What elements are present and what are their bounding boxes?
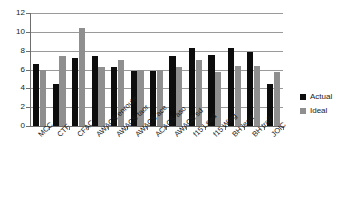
legend-item[interactable]: Ideal [300,104,332,118]
y-axis-tick-label: 8 [21,47,25,55]
legend-swatch-icon [300,94,306,100]
y-axis-tick-label: 6 [21,66,25,74]
legend: ActualIdeal [300,90,332,118]
bar-group [92,13,105,126]
y-axis-tick-label: 0 [21,122,25,130]
bar-group [228,13,241,126]
bar-actual [92,56,98,126]
bar-ideal [40,70,46,127]
bar-group [33,13,46,126]
bar-group [247,13,260,126]
legend-item[interactable]: Actual [300,90,332,104]
bar-group [208,13,221,126]
legend-swatch-icon [300,108,306,114]
y-axis-tick-label: 12 [16,9,25,17]
bar-ideal [254,66,260,126]
bar-actual [53,84,59,126]
bar-ideal [79,28,85,126]
legend-label: Ideal [310,107,327,115]
y-axis-tick-label: 4 [21,84,25,92]
bar-ideal [59,56,65,126]
y-axis-tick-label: 10 [16,28,25,36]
legend-label: Actual [310,93,332,101]
bar-ideal [98,67,104,126]
bar-actual [33,64,39,126]
bar-group [72,13,85,126]
bar-chart: 024681012 MCCCTFCFACAWACS enrouteAWACS t… [0,0,356,214]
bar-actual [72,58,78,126]
y-axis-tick-label: 2 [21,103,25,111]
bar-ideal [274,72,280,126]
bar-group [267,13,280,126]
bar-group [53,13,66,126]
